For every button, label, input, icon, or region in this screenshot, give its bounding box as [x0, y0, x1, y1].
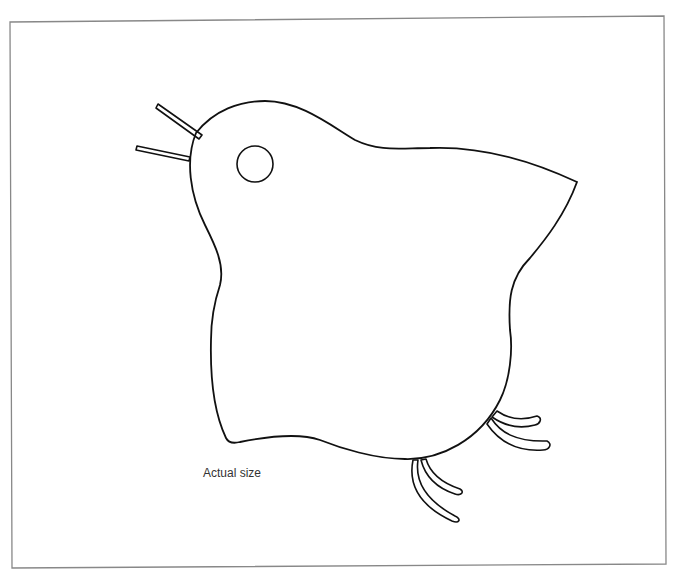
eye-icon: [237, 146, 273, 182]
frame-border: [10, 16, 666, 568]
head-feathers-icon: [136, 104, 202, 161]
chick-body-outline: [190, 101, 577, 459]
right-feet-icon: [487, 411, 550, 450]
bottom-feet-icon: [412, 459, 462, 522]
figure-canvas: [0, 0, 675, 580]
figure-caption: Actual size: [203, 466, 261, 480]
